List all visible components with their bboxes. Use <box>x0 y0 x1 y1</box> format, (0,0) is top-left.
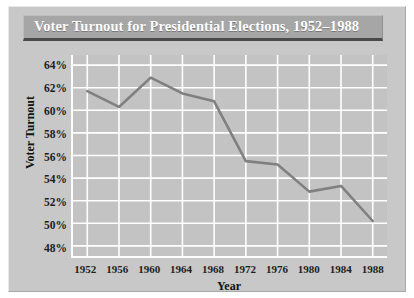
horizontal-gridlines <box>73 65 387 246</box>
plot-svg <box>73 55 387 256</box>
chart-title: Voter Turnout for Presidential Elections… <box>34 18 378 35</box>
x-axis-ticks: 1952195619601964196819721976198019841988 <box>71 263 387 279</box>
x-axis-label: Year <box>71 279 387 294</box>
chart-title-banner: Voter Turnout for Presidential Elections… <box>23 15 383 41</box>
voter-turnout-line <box>87 78 372 221</box>
y-axis-label: Voter Turnout <box>23 68 38 198</box>
chart-figure: Voter Turnout for Presidential Elections… <box>8 6 406 292</box>
y-tick-label: 50% <box>23 219 67 231</box>
plot-area <box>71 55 387 258</box>
x-tick-label: 1988 <box>350 263 396 275</box>
y-tick-label: 48% <box>23 242 67 254</box>
y-tick-label: 52% <box>23 196 67 208</box>
